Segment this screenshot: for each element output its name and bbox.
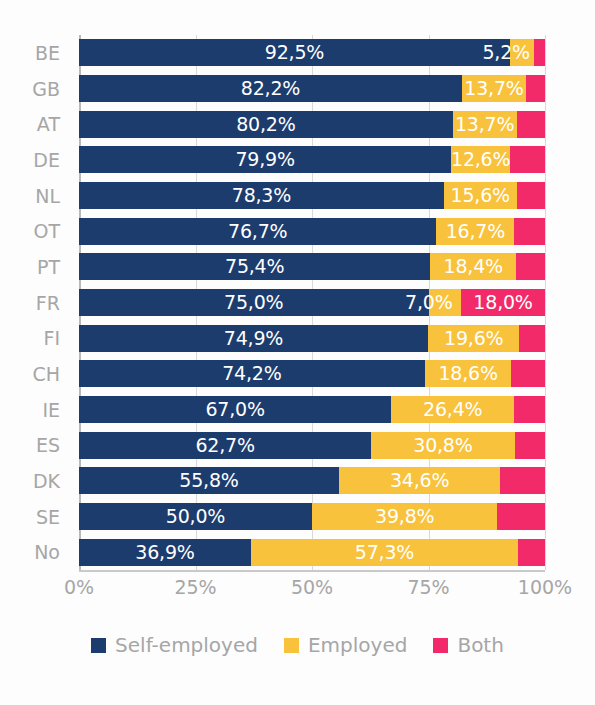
bar-value-label: 16,7%	[446, 222, 505, 241]
bar-segment-employed[interactable]: 12,6%	[451, 146, 510, 173]
bar-value-label: 79,9%	[235, 150, 294, 169]
bar-value-label: 18,6%	[438, 364, 497, 383]
category-label-de: DE	[33, 151, 60, 170]
category-label-ie: IE	[42, 401, 60, 420]
bar-segment-employed[interactable]: 15,6%	[444, 182, 517, 209]
bar-segment-self-employed[interactable]: 50,0%	[79, 503, 312, 530]
bar-segment-employed[interactable]: 19,6%	[428, 325, 519, 352]
bar-segment-both[interactable]	[510, 146, 545, 173]
category-label-at: AT	[37, 115, 60, 134]
bar-segment-both[interactable]	[517, 182, 545, 209]
bar-row[interactable]: 50,0%39,8%	[79, 503, 545, 530]
bar-row[interactable]: 82,2%13,7%	[79, 75, 545, 102]
bar-segment-employed[interactable]: 16,7%	[436, 218, 514, 245]
bar-segment-both[interactable]	[497, 503, 545, 530]
bar-segment-both[interactable]	[519, 325, 545, 352]
plot-area: 92,5%5,2%82,2%13,7%80,2%13,7%79,9%12,6%7…	[79, 35, 545, 570]
bar-segment-both[interactable]	[514, 396, 545, 423]
bar-value-label: 18,0%	[473, 293, 532, 312]
bar-value-label: 92,5%	[265, 43, 324, 62]
bar-segment-self-employed[interactable]: 36,9%	[79, 539, 251, 566]
bar-value-label: 12,6%	[451, 150, 510, 169]
bar-row[interactable]: 80,2%13,7%	[79, 111, 545, 138]
bar-value-label: 57,3%	[355, 543, 414, 562]
legend-label: Both	[457, 635, 503, 655]
bar-segment-employed[interactable]: 30,8%	[371, 432, 515, 459]
bar-value-label: 13,7%	[455, 115, 514, 134]
bar-segment-both[interactable]: 18,0%	[461, 289, 545, 316]
bar-segment-employed[interactable]: 26,4%	[391, 396, 514, 423]
bar-segment-employed[interactable]: 13,7%	[462, 75, 526, 102]
bar-segment-self-employed[interactable]: 74,9%	[79, 325, 428, 352]
bar-row[interactable]: 62,7%30,8%	[79, 432, 545, 459]
bar-row[interactable]: 36,9%57,3%	[79, 539, 545, 566]
bar-segment-both[interactable]	[517, 111, 545, 138]
category-label-fr: FR	[36, 294, 60, 313]
bar-segment-self-employed[interactable]: 74,2%	[79, 360, 425, 387]
bar-segment-self-employed[interactable]: 76,7%	[79, 218, 436, 245]
bar-row[interactable]: 74,9%19,6%	[79, 325, 545, 352]
bar-value-label: 82,2%	[241, 79, 300, 98]
bar-value-label: 34,6%	[390, 471, 449, 490]
stacked-bar-chart: BEGBATDENLOTPTFRFICHIEESDKSENo 92,5%5,2%…	[0, 0, 595, 705]
bar-segment-employed[interactable]: 18,4%	[430, 253, 516, 280]
category-label-es: ES	[36, 436, 60, 455]
category-label-se: SE	[36, 508, 60, 527]
legend-swatch-icon	[433, 638, 448, 653]
bar-segment-employed[interactable]: 18,6%	[425, 360, 512, 387]
bar-value-label: 76,7%	[228, 222, 287, 241]
bar-value-label: 26,4%	[423, 400, 482, 419]
bar-segment-employed[interactable]: 57,3%	[251, 539, 518, 566]
bar-row[interactable]: 76,7%16,7%	[79, 218, 545, 245]
bar-segment-employed[interactable]: 39,8%	[312, 503, 497, 530]
legend-item-employed[interactable]: Employed	[284, 635, 407, 655]
bar-segment-both[interactable]	[534, 39, 545, 66]
bar-row[interactable]: 74,2%18,6%	[79, 360, 545, 387]
x-tick-label-75: 75%	[407, 578, 449, 597]
bar-segment-self-employed[interactable]: 78,3%	[79, 182, 444, 209]
bar-segment-both[interactable]	[516, 253, 545, 280]
bar-segment-employed[interactable]: 7,0%	[429, 289, 462, 316]
bar-row[interactable]: 75,4%18,4%	[79, 253, 545, 280]
bar-segment-both[interactable]	[511, 360, 545, 387]
bar-row[interactable]: 75,0%7,0%18,0%	[79, 289, 545, 316]
bar-segment-self-employed[interactable]: 92,5%	[79, 39, 510, 66]
bar-segment-self-employed[interactable]: 80,2%	[79, 111, 453, 138]
category-label-gb: GB	[32, 80, 60, 99]
bar-segment-self-employed[interactable]: 55,8%	[79, 467, 339, 494]
bar-row[interactable]: 92,5%5,2%	[79, 39, 545, 66]
category-label-ot: OT	[33, 222, 60, 241]
bar-value-label: 50,0%	[166, 507, 225, 526]
bar-segment-self-employed[interactable]: 75,0%	[79, 289, 429, 316]
category-label-pt: PT	[37, 258, 60, 277]
bar-value-label: 15,6%	[451, 186, 510, 205]
bar-value-label: 19,6%	[444, 329, 503, 348]
bar-segment-both[interactable]	[518, 539, 545, 566]
bar-value-label: 39,8%	[375, 507, 434, 526]
x-tick-label-25: 25%	[174, 578, 216, 597]
legend-item-self-employed[interactable]: Self-employed	[91, 635, 258, 655]
chart-legend: Self-employedEmployedBoth	[0, 635, 595, 655]
bar-row[interactable]: 55,8%34,6%	[79, 467, 545, 494]
bar-segment-employed[interactable]: 5,2%	[510, 39, 534, 66]
bar-segment-self-employed[interactable]: 79,9%	[79, 146, 451, 173]
bar-rows: 92,5%5,2%82,2%13,7%80,2%13,7%79,9%12,6%7…	[79, 35, 545, 570]
bar-value-label: 13,7%	[464, 79, 523, 98]
bar-segment-self-employed[interactable]: 62,7%	[79, 432, 371, 459]
bar-segment-self-employed[interactable]: 67,0%	[79, 396, 391, 423]
bar-segment-both[interactable]	[515, 432, 545, 459]
bar-row[interactable]: 67,0%26,4%	[79, 396, 545, 423]
x-axis-ticks: 0%25%50%75%100%	[0, 578, 595, 608]
bar-segment-both[interactable]	[526, 75, 545, 102]
bar-row[interactable]: 78,3%15,6%	[79, 182, 545, 209]
bar-segment-both[interactable]	[514, 218, 545, 245]
category-label-dk: DK	[33, 472, 60, 491]
bar-segment-self-employed[interactable]: 75,4%	[79, 253, 430, 280]
bar-row[interactable]: 79,9%12,6%	[79, 146, 545, 173]
category-label-no: No	[34, 543, 60, 562]
bar-segment-employed[interactable]: 34,6%	[339, 467, 500, 494]
bar-segment-employed[interactable]: 13,7%	[453, 111, 517, 138]
bar-segment-both[interactable]	[500, 467, 545, 494]
legend-item-both[interactable]: Both	[433, 635, 503, 655]
bar-segment-self-employed[interactable]: 82,2%	[79, 75, 462, 102]
